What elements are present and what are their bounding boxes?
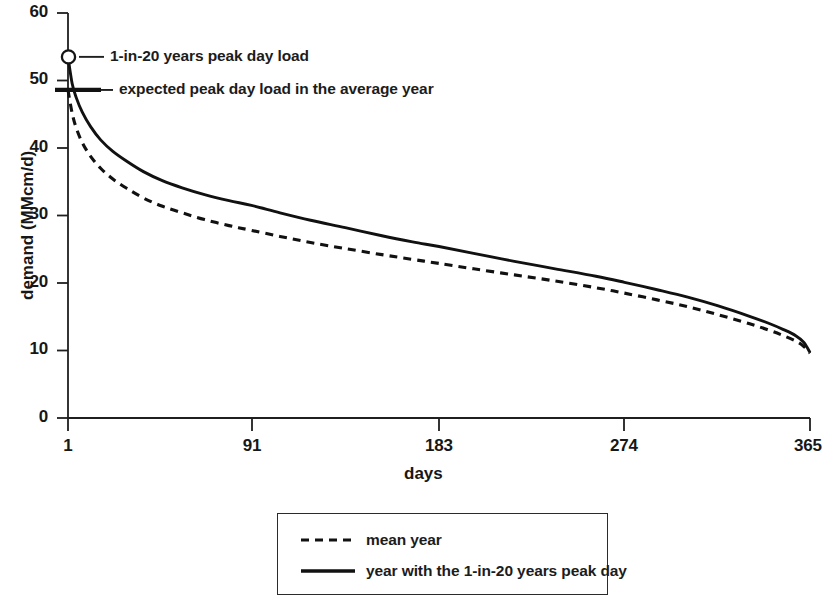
chart-legend: mean year year with the 1-in-20 years pe… [277,513,608,595]
peak-day-marker-icon [62,50,75,63]
legend-item-mean-year: mean year [300,527,442,553]
y-tick-label-50: 50 [8,69,48,89]
y-axis-ticks [57,13,68,418]
x-tick-label-183: 183 [417,436,461,456]
legend-label-mean-year: mean year [366,531,442,549]
y-tick-label-10: 10 [8,339,48,359]
y-axis-title: demand (MMcm/d) [18,151,38,300]
legend-item-peak-year: year with the 1-in-20 years peak day [300,558,627,584]
annotation-label-expected-peak: expected peak day load in the average ye… [119,80,434,98]
x-tick-label-1: 1 [48,436,88,456]
y-tick-label-0: 0 [8,407,48,427]
x-axis-title: days [404,464,443,484]
annotation-label-peak-1-in-20: 1-in-20 years peak day load [110,47,309,65]
legend-swatch-solid-icon [300,564,356,578]
x-axis-ticks [68,418,810,431]
x-tick-label-365: 365 [786,436,824,456]
y-tick-label-60: 60 [8,2,48,22]
legend-swatch-dashed-icon [300,533,356,547]
x-tick-label-274: 274 [602,436,646,456]
legend-label-peak-year: year with the 1-in-20 years peak day [366,562,627,580]
x-tick-label-91: 91 [232,436,272,456]
series-line-mean-year [68,90,810,353]
